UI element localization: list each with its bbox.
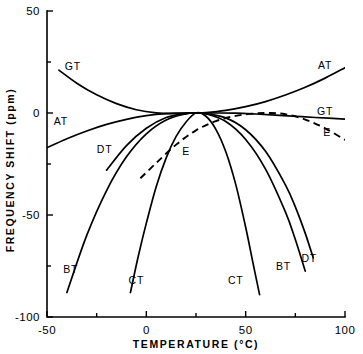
curve-label-bt: BT [276,260,291,272]
curve-label-ct: CT [129,274,145,286]
curve-label-at: AT [54,115,68,127]
axis-titles: TEMPERATURE (°C) FREQUENCY SHIFT (ppm) [4,88,259,350]
x-tick-label: 100 [335,324,356,336]
y-tick-label: -50 [22,209,40,221]
curve-gt [59,70,345,119]
curve-label-gt: GT [65,60,81,72]
x-tick-label: -50 [38,324,56,336]
x-tick-label: 0 [143,324,150,336]
axes [47,11,345,317]
curve-series [47,68,345,295]
curve-label-dt: DT [301,252,317,264]
curve-label-gt: GT [317,105,333,117]
y-axis-title: FREQUENCY SHIFT (ppm) [4,88,16,253]
x-tick-label: 50 [239,324,253,336]
curve-bt [67,113,305,293]
curve-label-ct: CT [228,274,244,286]
curve-ct [130,113,259,295]
y-tick-label: 0 [33,107,40,119]
curve-label-bt: BT [63,263,78,275]
curve-label-e: E [182,145,190,157]
curve-label-at: AT [318,59,332,71]
x-axis-title: TEMPERATURE (°C) [133,338,259,350]
curve-label-e: E [323,126,331,138]
y-tick-label: -100 [15,311,40,323]
curve-dt [107,113,314,258]
y-tick-label: 50 [26,5,40,17]
curve-at [47,68,345,148]
axis-spines [47,11,345,317]
tick-labels: 500-50-100-50050100 [15,5,355,336]
curve-label-dt: DT [97,143,113,155]
frequency-shift-chart: 500-50-100-50050100 GTATDTBTCTECTBTDTATG… [0,0,363,354]
chart-figure: 500-50-100-50050100 GTATDTBTCTECTBTDTATG… [0,0,363,354]
